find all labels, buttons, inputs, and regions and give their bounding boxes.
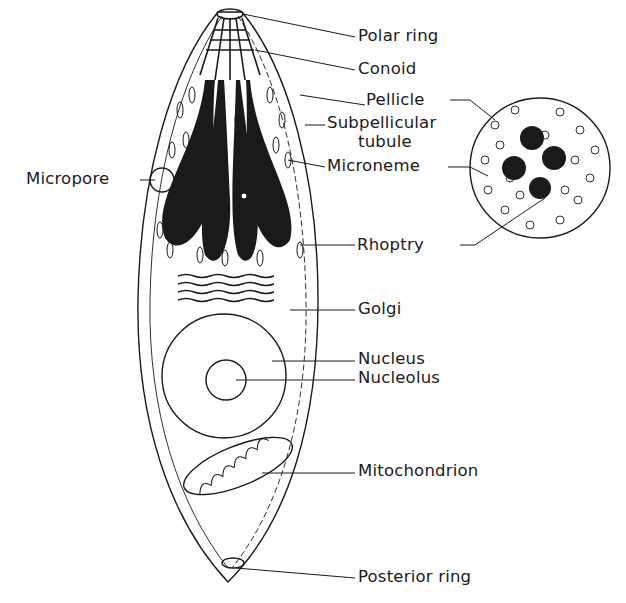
polar-ring (217, 9, 243, 19)
label-subpellicular: Subpellicular (327, 115, 436, 132)
conoid (200, 18, 260, 80)
label-nucleolus: Nucleolus (358, 370, 440, 387)
nucleus (162, 314, 286, 438)
label-conoid: Conoid (358, 61, 416, 78)
label-pellicle: Pellicle (366, 92, 425, 109)
label-polar-ring: Polar ring (358, 28, 438, 45)
label-microneme: Microneme (327, 158, 420, 175)
label-tubule: tubule (358, 134, 412, 151)
cell-diagram (0, 0, 626, 603)
leader-lines (140, 14, 545, 578)
cell-outline (138, 12, 318, 582)
label-posterior-ring: Posterior ring (358, 569, 471, 586)
label-mitochondrion: Mitochondrion (358, 463, 478, 480)
golgi (178, 275, 274, 302)
label-rhoptry: Rhoptry (357, 237, 424, 254)
label-nucleus: Nucleus (358, 351, 425, 368)
rhoptries (162, 80, 291, 261)
mitochondrion (177, 426, 300, 507)
cross-section (470, 98, 610, 238)
label-golgi: Golgi (358, 301, 402, 318)
label-micropore: Micropore (26, 171, 109, 188)
